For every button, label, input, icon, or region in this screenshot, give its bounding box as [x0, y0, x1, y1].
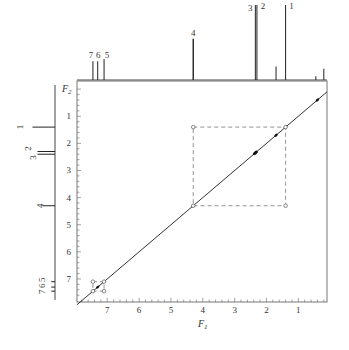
- top-peak-label: 1: [289, 1, 294, 11]
- top-peak-label: 4: [191, 28, 196, 38]
- x-axis: 7654321: [82, 298, 324, 315]
- top-1d-spectrum: 7654321: [77, 1, 327, 80]
- x-tick-label: 4: [201, 305, 206, 315]
- x-tick-label: 3: [232, 305, 237, 315]
- left-peak-label: 6: [37, 283, 47, 288]
- left-peak-label: 7: [37, 289, 47, 294]
- left-peak-label: 5: [37, 277, 47, 282]
- y-tick-label: 6: [67, 247, 72, 257]
- cross-peak-marker: [102, 280, 106, 284]
- cosy-spectrum-chart: 7654321 1234765 7654321 1234567 F1 F2: [0, 0, 349, 350]
- plot-frame: [77, 81, 327, 302]
- left-peak-label: 2: [23, 146, 33, 151]
- left-peak-label: 4: [35, 203, 45, 208]
- cross-peak-marker: [191, 125, 195, 129]
- top-peak-label: 5: [105, 50, 110, 60]
- plot-border: [77, 81, 327, 302]
- cross-peak-marker: [102, 289, 106, 293]
- x-tick-label: 5: [169, 305, 174, 315]
- x-tick-label: 6: [137, 305, 142, 315]
- cross-peak-marker: [284, 125, 288, 129]
- y-tick-label: 2: [67, 138, 72, 148]
- diagonal-line: [77, 92, 327, 305]
- y-tick-label: 4: [67, 193, 72, 203]
- top-peak-label: 6: [96, 50, 101, 60]
- cross-peak-marker: [191, 204, 195, 208]
- cross-peak-marker: [91, 289, 95, 293]
- x-axis-title: F1: [197, 318, 208, 331]
- x-tick-label: 2: [264, 305, 269, 315]
- top-peak-label: 3: [248, 3, 253, 13]
- cross-peak-marker: [284, 204, 288, 208]
- y-tick-label: 3: [67, 165, 72, 175]
- x-tick-label: 7: [105, 305, 110, 315]
- left-peak-label: 3: [28, 155, 38, 160]
- y-tick-label: 5: [67, 220, 72, 230]
- cross-peak-marker: [91, 280, 95, 284]
- top-peak-label: 2: [261, 1, 266, 11]
- y-tick-label: 1: [67, 111, 72, 121]
- y-tick-label: 7: [67, 274, 72, 284]
- y-axis: 1234567: [67, 89, 82, 295]
- y-axis-title: F2: [61, 83, 72, 96]
- left-peak-label: 1: [15, 125, 25, 130]
- x-tick-label: 1: [296, 305, 301, 315]
- left-1d-spectrum: 1234765: [15, 85, 55, 300]
- top-peak-label: 7: [89, 50, 94, 60]
- plot-area: [77, 92, 327, 305]
